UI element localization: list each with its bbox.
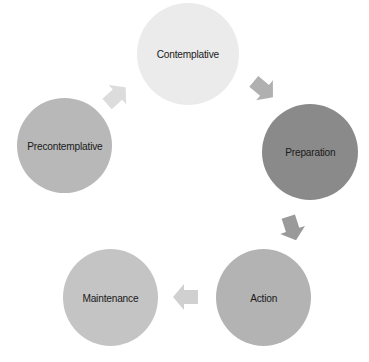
arrow-action-to-maintenance-icon bbox=[173, 284, 198, 310]
node-label: Contemplative bbox=[157, 48, 219, 60]
arrow-precontemplative-to-contemplative-icon bbox=[98, 78, 134, 114]
node-action: Action bbox=[216, 249, 311, 346]
node-label: Preparation bbox=[285, 146, 335, 158]
arrow-contemplative-to-preparation-icon bbox=[245, 71, 281, 107]
node-maintenance: Maintenance bbox=[63, 249, 158, 346]
node-precontemplative: Precontemplative bbox=[17, 98, 112, 193]
arrow-preparation-to-action-icon bbox=[276, 213, 308, 245]
node-contemplative: Contemplative bbox=[137, 3, 239, 105]
node-label: Action bbox=[250, 292, 277, 304]
node-label: Precontemplative bbox=[27, 140, 102, 152]
node-label: Maintenance bbox=[83, 292, 139, 304]
stages-of-change-cycle-diagram: Contemplative Preparation Action Mainten… bbox=[0, 0, 369, 362]
node-preparation: Preparation bbox=[262, 104, 358, 200]
